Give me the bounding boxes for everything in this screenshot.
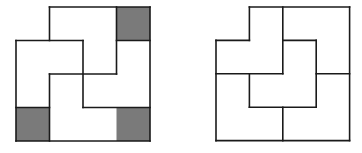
puzzle-diagram [0,0,362,153]
right-puzzle-figure [216,7,350,141]
shaded-cell [117,7,151,41]
shaded-cell [117,108,151,142]
shaded-cell [16,108,50,142]
left-puzzle-figure [16,7,150,141]
